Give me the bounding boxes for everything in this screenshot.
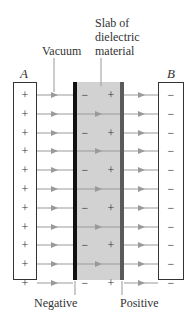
arrowhead-icon	[51, 261, 58, 267]
induced-plus-charge: +	[108, 88, 115, 102]
arrowhead-icon	[51, 167, 58, 173]
plate-a-plus-charge: +	[22, 144, 29, 158]
arrowhead-icon	[51, 242, 58, 248]
vacuum-label: Vacuum	[42, 44, 81, 58]
plate-b-minus-charge: −	[168, 163, 175, 177]
plate-b-minus-charge: −	[168, 107, 175, 121]
induced-plus-charge: +	[108, 238, 115, 252]
plate-b-minus-charge: −	[168, 126, 175, 140]
arrowhead-icon	[51, 280, 58, 286]
arrowhead-icon	[138, 186, 145, 192]
plate-a-plus-charge: +	[22, 238, 29, 252]
arrowhead-icon	[138, 224, 145, 230]
slab-label-line-1: Slab of	[95, 16, 129, 30]
induced-minus-charge: −	[82, 201, 89, 215]
induced-minus-charge: −	[82, 276, 89, 290]
plate-a-plus-charge: +	[22, 163, 29, 177]
plate-a-plus-charge: +	[22, 182, 29, 196]
induced-plus-charge: +	[108, 201, 115, 215]
plate-a-plus-charge: +	[22, 88, 29, 102]
arrowhead-icon	[51, 111, 58, 117]
arrowhead-icon	[51, 130, 58, 136]
plate-a-plus-charge: +	[22, 107, 29, 121]
negative-surface-charge-layer	[73, 82, 77, 280]
plate-a-plus-charge: +	[22, 126, 29, 140]
arrowhead-icon	[138, 111, 145, 117]
plate-b-minus-charge: −	[168, 276, 175, 290]
induced-minus-charge: −	[82, 88, 89, 102]
induced-plus-charge: +	[108, 126, 115, 140]
induced-minus-charge: −	[82, 126, 89, 140]
negative-label: Negative	[34, 296, 77, 310]
arrowhead-icon	[51, 92, 58, 98]
plate-a-plus-charge: +	[22, 257, 29, 271]
plate-a-plus-charge: +	[22, 276, 29, 290]
arrowhead-icon	[138, 280, 145, 286]
arrowhead-icon	[138, 130, 145, 136]
arrowhead-icon	[138, 148, 145, 154]
induced-minus-charge: −	[82, 163, 89, 177]
plate-b-minus-charge: −	[168, 201, 175, 215]
positive-surface-charge-layer	[120, 82, 124, 280]
plate-a-label: A	[20, 67, 28, 81]
induced-plus-charge: +	[108, 163, 115, 177]
plate-b-minus-charge: −	[168, 144, 175, 158]
plate-b-minus-charge: −	[168, 238, 175, 252]
induced-minus-charge: −	[82, 238, 89, 252]
arrowhead-icon	[138, 242, 145, 248]
arrowhead-icon	[51, 224, 58, 230]
plate-b-minus-charge: −	[168, 88, 175, 102]
arrowhead-icon	[51, 205, 58, 211]
plate-a-plus-charge: +	[22, 220, 29, 234]
arrowhead-icon	[51, 186, 58, 192]
plate-b-minus-charge: −	[168, 220, 175, 234]
slab-label-line-2: dielectric	[95, 30, 140, 44]
arrowhead-icon	[138, 92, 145, 98]
capacitor-dielectric-diagram: +−−++−+−−++−+−−++−+−−++−+−−++−+−−+ Slab …	[0, 0, 194, 328]
arrowhead-icon	[138, 205, 145, 211]
plate-b-minus-charge: −	[168, 182, 175, 196]
arrowhead-icon	[138, 261, 145, 267]
plate-b-label: B	[167, 67, 175, 81]
arrowhead-icon	[51, 148, 58, 154]
positive-label: Positive	[120, 296, 159, 310]
plate-b-minus-charge: −	[168, 257, 175, 271]
induced-plus-charge: +	[108, 276, 115, 290]
plate-a-plus-charge: +	[22, 201, 29, 215]
arrowhead-icon	[138, 167, 145, 173]
slab-label-line-3: material	[95, 44, 134, 58]
